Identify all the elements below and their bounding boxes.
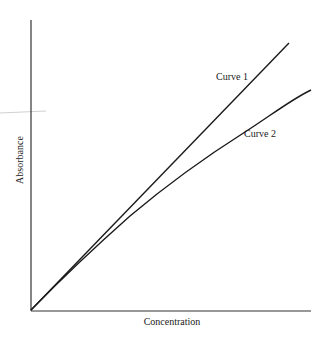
curve-1-line	[31, 43, 289, 310]
curve-1-label: Curve 1	[216, 72, 248, 82]
x-axis-label: Concentration	[144, 317, 201, 327]
y-axis-label: Absorbance	[15, 136, 25, 184]
curve-2-line	[31, 90, 311, 310]
chart-canvas	[0, 0, 325, 339]
curve-2-label: Curve 2	[244, 129, 276, 139]
stray-mark	[0, 111, 46, 113]
